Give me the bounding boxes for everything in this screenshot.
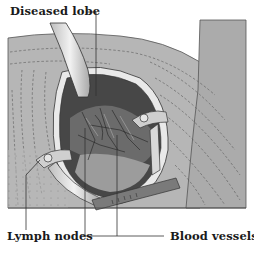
label-blood-vessels: Blood vessels <box>170 229 254 243</box>
label-diseased-lobe: Diseased lobe <box>10 4 100 18</box>
surgical-illustration <box>0 0 254 256</box>
label-lymph-nodes: Lymph nodes <box>7 229 93 243</box>
